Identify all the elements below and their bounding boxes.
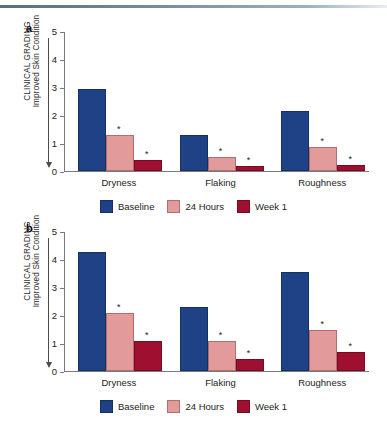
bar-flaking-24-hours[interactable]	[208, 157, 236, 171]
x-axis-label-dryness: Dryness	[101, 377, 136, 388]
significance-marker: *	[320, 320, 324, 329]
legend-label: Week 1	[255, 401, 287, 412]
y-tick-label: 3	[52, 283, 57, 293]
y-tick-label: 1	[52, 139, 57, 149]
y-axis-label-line1: CLINICAL GRADING	[23, 221, 32, 300]
y-tick-label: 5	[52, 227, 57, 237]
bar-roughness-baseline[interactable]	[281, 272, 309, 371]
bar-dryness-24-hours[interactable]	[106, 135, 134, 171]
legend-swatch-icon	[100, 200, 113, 213]
y-tick-label: 4	[52, 255, 57, 265]
y-tick-label: 2	[52, 111, 57, 121]
bar-group-flaking: **	[180, 31, 262, 171]
legend-swatch-icon	[167, 200, 180, 213]
y-tick-label: 2	[52, 311, 57, 321]
legend-item-baseline[interactable]: Baseline	[100, 400, 154, 413]
y-tick-label: 5	[52, 27, 57, 37]
y-tick-mark	[60, 344, 64, 345]
significance-marker: *	[247, 349, 251, 358]
top-divider-rule	[0, 5, 387, 8]
y-axis-label-line1: CLINICAL GRADING	[23, 21, 32, 100]
bar-group-roughness: **	[281, 31, 363, 171]
y-tick-mark	[60, 32, 64, 33]
x-axis-line	[64, 371, 369, 372]
bar-dryness-baseline[interactable]	[78, 252, 106, 371]
legend-swatch-icon	[237, 400, 250, 413]
significance-marker: *	[247, 156, 251, 165]
legend-item-baseline[interactable]: Baseline	[100, 200, 154, 213]
bar-roughness-24-hours[interactable]	[309, 330, 337, 371]
plot-area-a: 012345 ****** DrynessFlakingRoughness	[64, 32, 369, 172]
bar-flaking-week-1[interactable]	[236, 359, 264, 371]
legend-item-week-1[interactable]: Week 1	[237, 200, 287, 213]
y-tick-mark	[60, 88, 64, 89]
y-axis-line	[64, 232, 65, 372]
legend-item-week-1[interactable]: Week 1	[237, 400, 287, 413]
x-axis-label-flaking: Flaking	[205, 377, 236, 388]
x-axis-label-roughness: Roughness	[298, 177, 346, 188]
bar-group-flaking: **	[180, 231, 262, 371]
y-tick-label: 0	[52, 367, 57, 377]
bar-roughness-24-hours[interactable]	[309, 147, 337, 171]
y-tick-label: 3	[52, 83, 57, 93]
y-tick-mark	[60, 116, 64, 117]
y-tick-mark	[60, 232, 64, 233]
legend-b: Baseline24 HoursWeek 1	[0, 400, 387, 413]
bar-roughness-baseline[interactable]	[281, 111, 309, 171]
x-axis-label-dryness: Dryness	[101, 177, 136, 188]
bar-flaking-baseline[interactable]	[180, 135, 208, 171]
y-tick-mark	[60, 372, 64, 373]
legend-label: 24 Hours	[185, 201, 224, 212]
y-axis-label-b: CLINICAL GRADING Improved Skin Condition	[23, 196, 41, 326]
y-axis-label-line2: Improved Skin Condition	[32, 215, 41, 308]
y-tick-mark	[60, 60, 64, 61]
bar-roughness-week-1[interactable]	[337, 352, 365, 371]
chart-panel-a: a CLINICAL GRADING Improved Skin Conditi…	[0, 16, 387, 216]
y-tick-label: 0	[52, 167, 57, 177]
y-axis-line	[64, 32, 65, 172]
significance-marker: *	[348, 342, 352, 351]
significance-marker: *	[348, 155, 352, 164]
legend-label: 24 Hours	[185, 401, 224, 412]
bar-roughness-week-1[interactable]	[337, 165, 365, 171]
y-tick-mark	[60, 260, 64, 261]
x-axis-line	[64, 171, 369, 172]
x-axis-label-roughness: Roughness	[298, 377, 346, 388]
y-tick-label: 4	[52, 55, 57, 65]
x-axis-label-flaking: Flaking	[205, 177, 236, 188]
bar-flaking-baseline[interactable]	[180, 307, 208, 371]
legend-label: Baseline	[118, 201, 154, 212]
plot-area-b: 012345 ****** DrynessFlakingRoughness	[64, 232, 369, 372]
chart-panel-b: b CLINICAL GRADING Improved Skin Conditi…	[0, 216, 387, 416]
bar-dryness-24-hours[interactable]	[106, 313, 134, 371]
significance-marker: *	[219, 331, 223, 340]
bar-dryness-week-1[interactable]	[134, 341, 162, 371]
legend-swatch-icon	[167, 400, 180, 413]
y-tick-mark	[60, 288, 64, 289]
y-tick-mark	[60, 172, 64, 173]
bar-group-dryness: **	[78, 231, 160, 371]
y-axis-label-a: CLINICAL GRADING Improved Skin Condition	[23, 0, 41, 126]
legend-item-24-hours[interactable]: 24 Hours	[167, 200, 224, 213]
legend-label: Week 1	[255, 201, 287, 212]
legend-label: Baseline	[118, 401, 154, 412]
significance-marker: *	[320, 137, 324, 146]
legend-item-24-hours[interactable]: 24 Hours	[167, 400, 224, 413]
y-tick-mark	[60, 316, 64, 317]
bar-flaking-week-1[interactable]	[236, 166, 264, 171]
significance-marker: *	[145, 150, 149, 159]
y-tick-label: 1	[52, 339, 57, 349]
y-axis-label-line2: Improved Skin Condition	[32, 15, 41, 108]
bar-group-roughness: **	[281, 231, 363, 371]
legend-swatch-icon	[100, 400, 113, 413]
bar-flaking-24-hours[interactable]	[208, 341, 236, 371]
significance-marker: *	[145, 331, 149, 340]
bar-group-dryness: **	[78, 31, 160, 171]
bar-dryness-week-1[interactable]	[134, 160, 162, 171]
legend-a: Baseline24 HoursWeek 1	[0, 200, 387, 213]
significance-marker: *	[117, 125, 121, 134]
bar-dryness-baseline[interactable]	[78, 89, 106, 171]
significance-marker: *	[219, 147, 223, 156]
significance-marker: *	[117, 303, 121, 312]
y-tick-mark	[60, 144, 64, 145]
